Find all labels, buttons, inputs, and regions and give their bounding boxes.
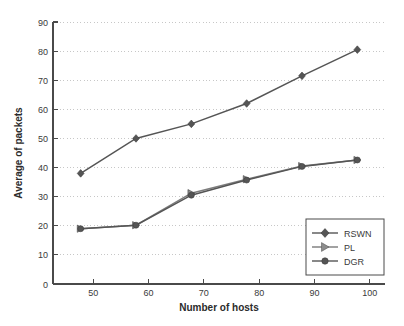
x-tick-label: 50 [88, 288, 98, 298]
y-tick-label: 70 [38, 76, 48, 86]
circle-marker-icon [354, 157, 360, 163]
chart-figure: 90 80 70 60 50 40 30 20 10 0 50 60 70 80… [0, 0, 404, 326]
x-tick-label: 80 [254, 288, 264, 298]
y-tick-label: 80 [38, 47, 48, 57]
circle-marker-icon [188, 192, 194, 198]
y-tick-label: 60 [38, 105, 48, 115]
y-axis-title: Average of packets [13, 107, 24, 199]
x-tick-label: 60 [143, 288, 153, 298]
x-axis-tick-labels: 50 60 70 80 90 100 [88, 288, 377, 298]
x-axis-title: Number of hosts [179, 302, 259, 313]
x-tick-label: 70 [199, 288, 209, 298]
y-tick-label: 0 [43, 280, 48, 290]
y-tick-label: 10 [38, 250, 48, 260]
x-tick-label: 100 [362, 288, 377, 298]
y-tick-label: 20 [38, 221, 48, 231]
circle-marker-icon [322, 258, 328, 264]
legend-label-rswn: RSWN [344, 229, 372, 239]
line-chart-canvas: 90 80 70 60 50 40 30 20 10 0 50 60 70 80… [0, 0, 404, 326]
circle-marker-icon [244, 177, 250, 183]
circle-marker-icon [78, 226, 84, 232]
legend-label-dgr: DGR [344, 257, 365, 267]
circle-marker-icon [299, 163, 305, 169]
legend[interactable]: RSWN PL DGR [306, 219, 384, 275]
x-tick-label: 90 [309, 288, 319, 298]
y-tick-label: 40 [38, 163, 48, 173]
y-tick-label: 30 [38, 192, 48, 202]
y-tick-label: 90 [38, 18, 48, 28]
y-tick-label: 50 [38, 134, 48, 144]
y-axis-tick-labels: 90 80 70 60 50 40 30 20 10 0 [38, 18, 48, 290]
legend-label-pl: PL [344, 243, 355, 253]
circle-marker-icon [133, 222, 139, 228]
